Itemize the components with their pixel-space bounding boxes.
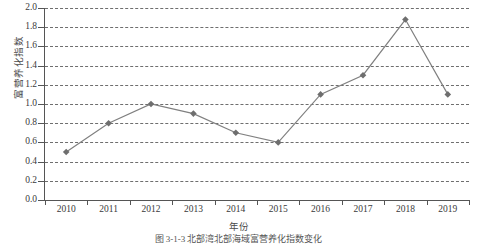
x-axis-tick-label: 2019 [426, 205, 470, 215]
data-series-line [45, 8, 469, 200]
y-axis-tick-label: 2.0 [3, 3, 37, 13]
data-point-marker [148, 101, 155, 108]
x-axis-tick-label: 2018 [383, 205, 427, 215]
y-axis-tick-label: 1.8 [3, 22, 37, 32]
y-axis-tick-mark [38, 85, 44, 86]
data-point-marker [105, 120, 112, 127]
series-polyline [66, 20, 448, 152]
y-axis-tick-mark [38, 27, 44, 28]
data-point-marker [445, 91, 452, 98]
y-axis-tick-mark [38, 46, 44, 47]
y-axis-tick-label: 0.0 [3, 195, 37, 205]
x-axis-tick-label: 2010 [44, 205, 88, 215]
y-axis-tick-label: 0.2 [3, 176, 37, 186]
x-axis-tick-label: 2013 [171, 205, 215, 215]
y-axis-tick-mark [38, 162, 44, 163]
y-axis-tick-mark [38, 8, 44, 9]
x-axis-title: 年份 [0, 219, 477, 233]
y-axis-tick-label: 1.4 [3, 61, 37, 71]
y-axis-tick-label: 0.6 [3, 137, 37, 147]
data-point-marker [63, 149, 70, 156]
x-axis-tick-label: 2012 [129, 205, 173, 215]
y-axis-tick-label: 1.6 [3, 41, 37, 51]
x-axis-tick-label: 2011 [87, 205, 131, 215]
y-axis-tick-label: 0.4 [3, 157, 37, 167]
data-point-marker [190, 110, 197, 117]
y-axis-tick-label: 1.0 [3, 99, 37, 109]
y-axis-tick-mark [38, 123, 44, 124]
x-axis-tick-label: 2017 [341, 205, 385, 215]
y-axis-tick-mark [38, 104, 44, 105]
figure-caption: 图 3-1-3 北部湾北部海域富营养化指数变化 [0, 232, 477, 245]
y-axis-tick-mark [38, 181, 44, 182]
y-axis-tick-mark [38, 66, 44, 67]
data-point-marker [233, 130, 240, 137]
x-axis-tick-label: 2014 [214, 205, 258, 215]
y-axis-tick-mark [38, 142, 44, 143]
y-axis-tick-label: 1.2 [3, 80, 37, 90]
plot-area [45, 8, 469, 200]
x-axis-tick-label: 2015 [256, 205, 300, 215]
x-axis-tick-label: 2016 [299, 205, 343, 215]
y-axis-tick-label: 0.8 [3, 118, 37, 128]
y-axis-tick-mark [38, 200, 44, 201]
